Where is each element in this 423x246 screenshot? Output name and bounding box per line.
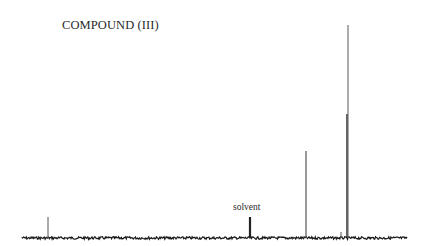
solvent-annotation: solvent: [233, 202, 260, 212]
baseline-noise: [22, 237, 407, 240]
spectrum-peaks: [48, 25, 348, 238]
spectrum-plot: [0, 0, 423, 246]
